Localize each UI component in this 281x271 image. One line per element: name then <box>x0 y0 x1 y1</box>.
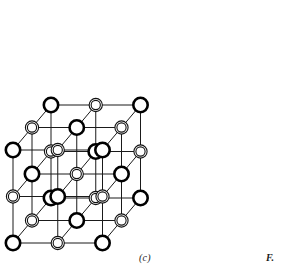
lattice-node-thick-ring <box>133 191 147 205</box>
lattice-node-double-ring <box>51 143 64 156</box>
lattice-node-thick-ring <box>6 143 20 157</box>
lattice-node-double-ring <box>51 236 64 249</box>
node-outer-ring <box>133 98 147 112</box>
figure-reference-label: F. <box>266 252 274 263</box>
lattice-node-double-ring <box>25 214 38 227</box>
lattice-node-thick-ring <box>133 98 147 112</box>
lattice-node-double-ring <box>70 167 83 180</box>
node-outer-ring <box>95 236 109 250</box>
lattice-node-double-ring <box>115 121 128 134</box>
node-outer-ring <box>133 191 147 205</box>
lattice-node-thick-ring <box>70 120 84 134</box>
figure-container: (c) F. <box>0 0 281 271</box>
node-outer-ring <box>25 167 39 181</box>
node-outer-ring <box>70 213 84 227</box>
lattice-node-double-ring <box>96 190 109 203</box>
crystal-lattice-diagram <box>0 0 281 271</box>
lattice-node-thick-ring <box>6 236 20 250</box>
lattice-node-double-ring <box>25 121 38 134</box>
lattice-node-double-ring <box>6 190 19 203</box>
lattice-node-thick-ring <box>95 236 109 250</box>
lattice-node-thick-ring <box>25 167 39 181</box>
panel-label: (c) <box>139 252 151 263</box>
lattice-node-thick-ring <box>51 189 65 203</box>
node-outer-ring <box>70 120 84 134</box>
lattice-node-thick-ring <box>95 143 109 157</box>
node-outer-ring <box>95 143 109 157</box>
lattice-node-layer <box>6 98 148 250</box>
node-outer-ring <box>44 98 58 112</box>
lattice-node-double-ring <box>89 98 102 111</box>
lattice-node-thick-ring <box>114 167 128 181</box>
lattice-node-thick-ring <box>70 213 84 227</box>
lattice-node-double-ring <box>115 214 128 227</box>
node-outer-ring <box>114 167 128 181</box>
lattice-node-thick-ring <box>44 98 58 112</box>
node-outer-ring <box>51 189 65 203</box>
node-outer-ring <box>6 236 20 250</box>
node-outer-ring <box>6 143 20 157</box>
lattice-node-double-ring <box>134 145 147 158</box>
